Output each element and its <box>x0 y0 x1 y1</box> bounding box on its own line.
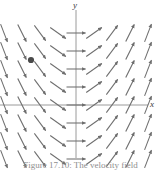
direction-field-arrow <box>106 25 117 40</box>
direction-field-arrow <box>145 24 152 42</box>
axes-group <box>0 10 148 158</box>
direction-field-arrow <box>86 64 102 75</box>
direction-field-arrow <box>50 118 66 129</box>
direction-field-arrow <box>126 79 135 96</box>
x-axis-label: x <box>150 100 154 109</box>
direction-field-arrow <box>18 25 27 42</box>
direction-field-arrow <box>50 82 66 93</box>
direction-field-arrow <box>50 46 66 57</box>
direction-field-arrow <box>126 61 135 78</box>
direction-field-arrow <box>18 61 27 78</box>
direction-field-arrow <box>126 133 135 150</box>
direction-field-arrow <box>34 133 45 148</box>
direction-field-arrow <box>126 115 135 132</box>
direction-field-arrow <box>34 43 45 58</box>
direction-field-arrow <box>126 43 135 60</box>
direction-field-arrow <box>145 78 152 96</box>
direction-field-arrow <box>145 132 152 150</box>
direction-field-arrow <box>34 115 45 130</box>
y-axis-label: y <box>73 1 77 10</box>
marked-points-group <box>28 57 34 63</box>
direction-field-arrow <box>145 60 152 78</box>
direction-field-arrow <box>1 42 8 60</box>
direction-field-arrow <box>50 64 66 75</box>
direction-field-arrow <box>18 133 27 150</box>
direction-field-arrow <box>34 61 45 76</box>
direction-field-arrow <box>106 61 117 76</box>
direction-field-arrow <box>106 115 117 130</box>
direction-field-arrow <box>106 79 117 94</box>
direction-field-arrow <box>86 136 102 147</box>
direction-field-arrow <box>86 82 102 93</box>
direction-field-arrow <box>1 132 8 150</box>
direction-field-arrow <box>1 78 8 96</box>
direction-field-arrow <box>50 28 66 39</box>
slope-field-plot <box>0 0 161 170</box>
direction-field-arrow <box>1 114 8 132</box>
direction-field-arrow <box>145 114 152 132</box>
direction-field-arrow <box>34 25 45 40</box>
direction-field-arrow <box>1 60 8 78</box>
direction-field-arrow <box>106 133 117 148</box>
direction-field-arrow <box>86 46 102 57</box>
direction-field-arrow <box>126 25 135 42</box>
direction-field-arrow <box>86 28 102 39</box>
direction-field-arrow <box>18 79 27 96</box>
direction-field-arrow <box>145 42 152 60</box>
slope-field-figure: y x Figure 17.10: The velocity field <box>0 0 161 170</box>
direction-field-arrow <box>1 24 8 42</box>
direction-field-arrow <box>18 115 27 132</box>
direction-field-arrow <box>18 43 27 60</box>
direction-field-arrow <box>50 136 66 147</box>
direction-field-arrow <box>106 43 117 58</box>
direction-field-arrow <box>86 118 102 129</box>
marked-point <box>28 57 34 63</box>
figure-caption: Figure 17.10: The velocity field <box>0 160 161 170</box>
direction-field-arrow <box>34 79 45 94</box>
